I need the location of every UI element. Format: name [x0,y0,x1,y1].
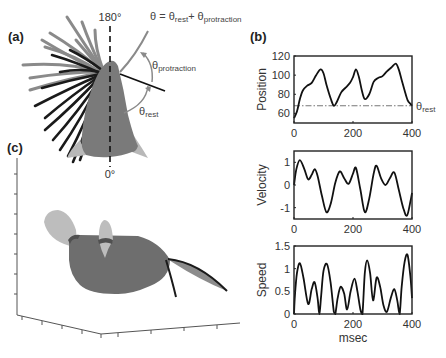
x-tick-label: 200 [344,318,362,330]
x-tick-label: 200 [344,223,362,235]
x-tick-label: 0 [291,318,297,330]
theta-rest-label: θrest [139,105,159,119]
panel-b-label: (b) [250,29,267,44]
y-tick-label: 120 [272,50,290,62]
x-tick-label: 400 [403,318,421,330]
data-series-line [294,64,412,119]
panel-c-label: (c) [7,140,23,155]
x-tick-label: 0 [291,127,297,139]
x-tick-label: 0 [291,223,297,235]
panel-c: (c) [7,140,240,338]
x-tick-label: 400 [403,127,421,139]
panel-a: (a) [8,10,242,180]
y-tick-label: 1.5 [275,240,290,252]
data-series-line [294,160,412,216]
y-tick-label: 100 [272,69,290,81]
whisker-sheet-3d [168,259,227,291]
rat-body-3d [69,235,170,294]
y-tick-label: -1 [280,202,290,214]
y-tick-label: 0.5 [275,285,290,297]
y-axis-label: Position [255,68,269,111]
y-tick-label: 80 [278,88,290,100]
x-tick-label: 200 [344,127,362,139]
y-tick-label: 0 [284,179,290,191]
speed-chart: 020040000.511.5Speedmsec [255,240,421,345]
protracted-angle-line [120,31,148,72]
x-tick-label: 400 [403,223,421,235]
x-axis-label: msec [339,331,368,345]
axes-box [294,151,412,219]
y-tick-label: 0 [284,308,290,320]
rest-angle-line [120,74,165,91]
axes-box [294,56,412,123]
y-axis-label: Speed [255,263,269,298]
theta-rest-ref-label: θrest [416,100,436,114]
angle-0-label: 0° [105,168,116,180]
panel-a-label: (a) [8,29,24,44]
data-series-line [294,254,412,314]
y-axis-label: Velocity [255,164,269,205]
whisker-lower-3d [166,260,176,297]
position-chart: θrest02004006080100120Position [255,50,436,139]
y-tick-label: 60 [278,107,290,119]
velocity-chart: 0200400-101Velocity [255,151,421,235]
protraction-arc [143,53,152,82]
y-tick-label: 1 [284,156,290,168]
figure: (a) [0,0,446,358]
y-tick-label: 1 [284,263,290,275]
equation-label: θ = θrest+ θprotraction [150,10,242,24]
angle-180-label: 180° [99,11,122,23]
theta-protraction-label: θprotraction [152,59,196,73]
